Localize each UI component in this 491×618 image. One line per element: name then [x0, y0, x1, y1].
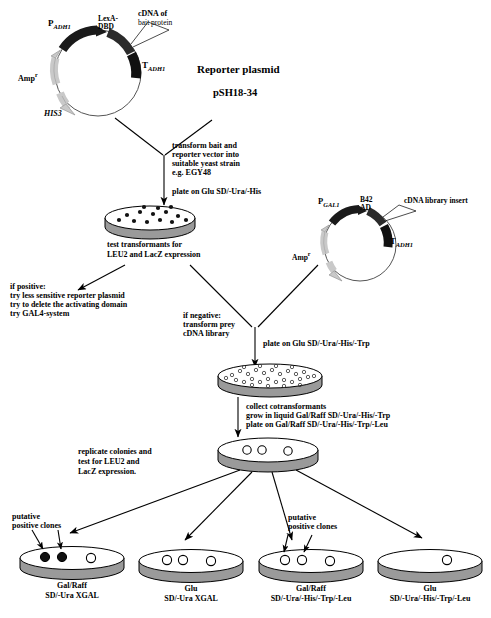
prey-promoter-label: PGAL1 [318, 197, 339, 208]
result-plate-3-line2: SD/-Ura/-His/-Trp/-Leu [243, 594, 379, 604]
result-plate-4-line1: Glu [362, 584, 491, 594]
result-plate-4-caption: Glu SD/-Ura/-His/-Trp/-Leu [362, 584, 491, 603]
result-plate-1-caption: Gal/Raff SD/-Ura XGAL [12, 581, 132, 600]
plate-transformants [105, 205, 195, 239]
step-test-transformants-line1: test transformants for [107, 241, 182, 250]
fanout-arrows-results [70, 470, 422, 540]
result-plate-4 [378, 550, 482, 583]
bait-promoter-label: PADH1 [48, 18, 71, 30]
step-transform-text: transform bait and reporter vector into … [172, 142, 240, 178]
reporter-plasmid-name: pSH18-34 [213, 87, 257, 99]
branch-if-positive-text: if positive: try less sensitive reporter… [10, 283, 127, 319]
step-replicate-line1: replicate colonies and [78, 448, 152, 457]
result-plate-1-line1: Gal/Raff [12, 581, 132, 591]
replicate-leu2: LEU2 [104, 457, 124, 466]
bait-terminator-label: TADH1 [142, 60, 165, 72]
replicate-testfor: test for [78, 457, 104, 466]
leu2-italic: LEU2 [107, 250, 127, 259]
prey-term-sub: ADH1 [396, 241, 413, 248]
step-replicate-line3: LacZ expression. [78, 468, 136, 477]
replicate-and: and [125, 457, 140, 466]
bait-amp-sup: r [35, 72, 38, 78]
ad-label: AD [360, 204, 371, 212]
bait-term-sub: ADH1 [148, 65, 165, 72]
result-plate-3 [259, 535, 363, 583]
bait-amp-label: Ampr [18, 72, 38, 84]
result-plate-4-line2: SD/-Ura/-His/-Trp/-Leu [362, 594, 491, 604]
result-plate-3-line1: Gal/Raff [243, 584, 379, 594]
bait-his3-label: HIS3 [44, 110, 62, 119]
step-plate-glu-ura-his: plate on Glu SD/-Ura/-His [172, 188, 261, 197]
result-plate-1 [20, 530, 124, 580]
result-plate-2-line2: SD/-Ura XGAL [131, 594, 251, 604]
annotation-putative-left: putative positive clones [12, 513, 61, 531]
diagram-canvas: PADH1 LexA- DBD cDNA of bait protein TAD… [0, 0, 491, 618]
result-plate-2-caption: Glu SD/-Ura XGAL [131, 584, 251, 603]
reporter-plasmid-title: Reporter plasmid [197, 63, 280, 75]
step-replicate-line2: test for LEU2 and [78, 458, 139, 467]
plate-replica-master [218, 438, 318, 472]
step-test-transformants-line2: LEU2 and LacZ expression [107, 251, 200, 260]
branch-if-negative-text: if negative: transform prey cDNA library [183, 312, 235, 339]
step-plate-glu-ura-his-trp: plate on Glu SD/-Ura/-His/-Trp [263, 340, 370, 349]
cdna-library-insert-label: cDNA library insert [404, 197, 468, 205]
result-plate-2 [139, 550, 243, 583]
prey-terminator-label: TADH1 [390, 237, 413, 248]
result-plate-2-line1: Glu [131, 584, 251, 594]
prey-promoter-sub: GAL1 [323, 201, 339, 208]
step-collect-cotransformants: collect cotransformants grow in liquid G… [246, 403, 390, 430]
annotation-putative-right: putative positive clones [288, 514, 337, 532]
plate-cotransformants-dense [218, 364, 322, 397]
cdna-bait-label-2: bait protein [138, 19, 172, 27]
prey-amp-sup: r [308, 251, 311, 257]
prey-amp-label: Ampr [292, 251, 311, 262]
lacz-rest: and LacZ expression [127, 250, 200, 259]
bait-promoter-sub: ADH1 [54, 23, 71, 30]
replicate-lacz: LacZ [78, 467, 96, 476]
replicate-expression: expression. [96, 467, 136, 476]
result-plate-1-line2: SD/-Ura XGAL [12, 591, 132, 601]
result-plate-3-caption: Gal/Raff SD/-Ura/-His/-Trp/-Leu [243, 584, 379, 603]
lexa-dbd-label: LexA- DBD [98, 15, 118, 32]
